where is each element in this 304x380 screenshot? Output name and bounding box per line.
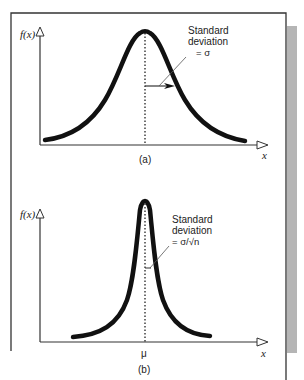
- y-axis-arrow-icon: [36, 209, 44, 218]
- frame-shadow: [287, 26, 297, 353]
- annotation-line3-b: = σ/√n: [172, 236, 199, 247]
- panel-a: [36, 27, 268, 149]
- x-axis-arrow-icon: [257, 141, 268, 149]
- panel-b: [36, 200, 268, 346]
- caption-a: (a): [139, 154, 151, 165]
- leader-line-a: [159, 57, 186, 86]
- x-axis-arrow-icon: [257, 338, 268, 346]
- normal-distribution-figure: f(x) Standard deviation = σ x (a) f(x) S…: [0, 0, 304, 380]
- x-axis-label-b: x: [261, 348, 266, 359]
- annotation-line2-b: deviation: [172, 225, 212, 236]
- figure-frame: [11, 13, 286, 380]
- figure-graphics: [0, 0, 304, 380]
- y-axis-label-b: f(x): [20, 209, 35, 220]
- annotation-line1-b: Standard: [172, 214, 213, 225]
- y-axis-label-a: f(x): [20, 29, 35, 40]
- annotation-line1-a: Standard: [188, 25, 229, 36]
- y-axis-arrow-icon: [36, 27, 44, 36]
- annotation-line3-a: = σ: [196, 47, 210, 58]
- x-axis-label-a: x: [262, 150, 267, 161]
- mean-label-b: μ: [141, 348, 147, 359]
- caption-b: (b): [138, 364, 150, 375]
- annotation-line2-a: deviation: [188, 36, 228, 47]
